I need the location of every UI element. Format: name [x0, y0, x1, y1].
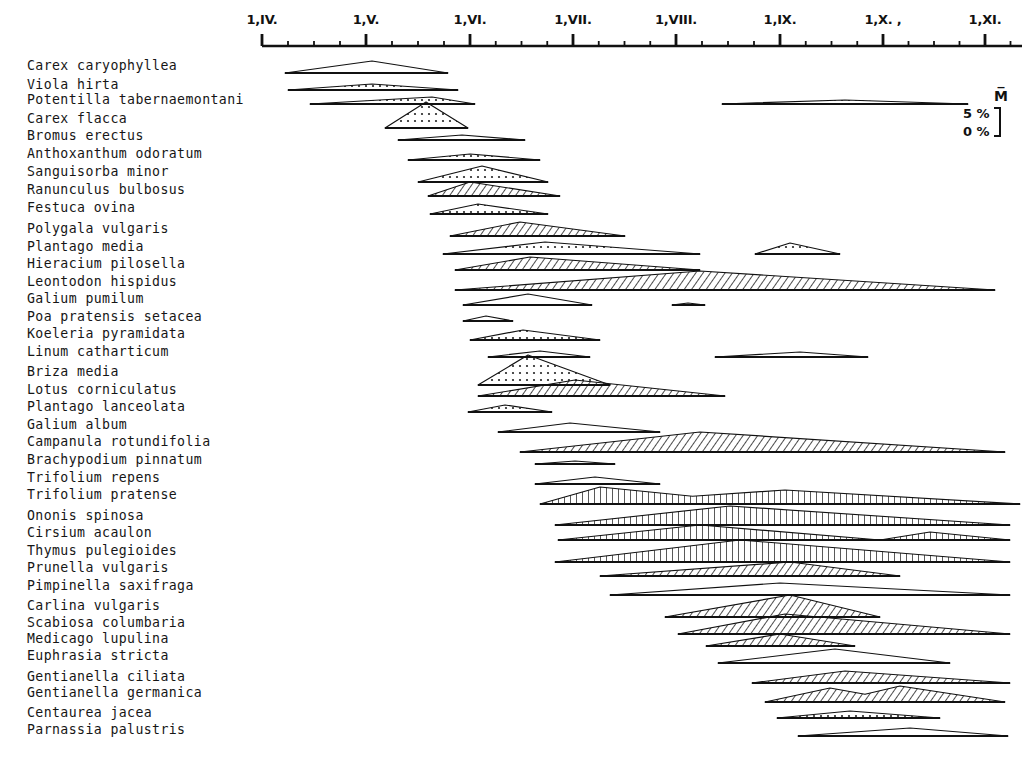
species-abundance-curve [665, 595, 880, 617]
species-abundance-curve [706, 634, 855, 646]
axis-tick-label: 1,VII. [554, 12, 591, 27]
species-abundance-curve [430, 204, 548, 214]
species-label: Bromus erectus [27, 128, 144, 143]
species-label: Leontodon hispidus [27, 274, 177, 289]
legend-lower-value: 0 % [963, 124, 990, 139]
species-label: Carlina vulgaris [27, 598, 160, 613]
species-label: Medicago lupulina [27, 631, 169, 646]
species-label: Prunella vulgaris [27, 560, 169, 575]
axis-tick-label: 1,IV. [246, 12, 277, 27]
species-abundance-curve [755, 243, 840, 254]
time-axis [262, 34, 1022, 46]
scale-legend [994, 108, 1000, 136]
axis-tick-label: 1,VI. [454, 12, 487, 27]
species-label: Briza media [27, 364, 119, 379]
species-label: Ononis spinosa [27, 508, 144, 523]
species-label: Viola hirta [27, 77, 119, 92]
species-label: Plantago lanceolata [27, 399, 185, 414]
species-abundance-curve [752, 671, 1010, 683]
species-abundance-curve [880, 532, 1010, 540]
species-label: Brachypodium pinnatum [27, 452, 202, 467]
species-abundance-curve [540, 487, 1020, 504]
species-abundance-curve [455, 257, 700, 270]
species-label: Campanula rotundifolia [27, 434, 210, 449]
species-label: Sanguisorba minor [27, 164, 169, 179]
species-abundance-curve [798, 728, 1008, 736]
phenology-chart: Carex caryophylleaViola hirtaPotentilla … [0, 0, 1034, 758]
species-abundance-curve [285, 61, 448, 73]
axis-tick-label: 1,X. , [864, 12, 901, 27]
species-label: Thymus pulegioides [27, 543, 177, 558]
legend-scale-bracket [994, 108, 1000, 136]
species-label: Cirsium acaulon [27, 525, 152, 540]
axis-tick-label: 1,IX. [764, 12, 797, 27]
species-label: Euphrasia stricta [27, 648, 169, 663]
axis-tick-label: 1,V. [353, 12, 380, 27]
species-label: Parnassia palustris [27, 722, 185, 737]
species-abundance-curve [470, 330, 600, 340]
species-abundance-curve [718, 649, 950, 663]
species-abundance-curve [555, 506, 1010, 525]
species-abundance-curve [535, 477, 660, 484]
axis-tick-label: 1,VIII. [655, 12, 697, 27]
species-curves [285, 61, 1020, 736]
species-label: Koeleria pyramidata [27, 326, 185, 341]
species-label: Gentianella germanica [27, 685, 202, 700]
species-abundance-curve [310, 97, 475, 104]
species-label: Carex caryophyllea [27, 58, 177, 73]
legend-upper-value: 5 % [963, 106, 990, 121]
species-abundance-curve [777, 711, 940, 718]
species-label: Polygala vulgaris [27, 221, 169, 236]
species-label: Galium pumilum [27, 291, 144, 306]
species-label: Trifolium repens [27, 470, 160, 485]
legend-mean-symbol: M̅ [994, 88, 1008, 104]
species-abundance-curve [455, 271, 995, 290]
species-label: Centaurea jacea [27, 705, 152, 720]
species-abundance-curve [555, 540, 1010, 562]
species-label: Hieracium pilosella [27, 256, 185, 271]
species-abundance-curve [600, 562, 900, 576]
species-abundance-curve [385, 102, 468, 128]
species-abundance-curve [520, 432, 1005, 452]
species-abundance-curve [418, 166, 548, 182]
species-abundance-curve [463, 294, 592, 305]
species-label: Poa pratensis setacea [27, 309, 202, 324]
species-abundance-curve [765, 686, 1005, 702]
species-abundance-curve [450, 222, 625, 236]
species-label: Ranunculus bulbosus [27, 182, 185, 197]
axis-tick-label: 1,XI. [969, 12, 1002, 27]
species-label: Potentilla tabernaemontani [27, 92, 244, 107]
species-abundance-curve [443, 242, 700, 254]
species-label: Lotus corniculatus [27, 382, 177, 397]
species-abundance-curve [610, 583, 1010, 595]
species-abundance-curve [468, 405, 552, 412]
species-label: Festuca ovina [27, 200, 135, 215]
species-label: Carex flacca [27, 111, 127, 126]
species-label: Galium album [27, 417, 127, 432]
species-abundance-curve [498, 423, 660, 432]
species-label: Pimpinella saxifraga [27, 578, 194, 593]
species-label: Linum catharticum [27, 344, 169, 359]
species-label: Trifolium pratense [27, 487, 177, 502]
species-label: Scabiosa columbaria [27, 615, 185, 630]
species-abundance-curve [558, 525, 880, 540]
species-abundance-curve [428, 182, 560, 196]
species-label: Gentianella ciliata [27, 669, 185, 684]
species-label: Anthoxanthum odoratum [27, 146, 202, 161]
species-abundance-curve [478, 355, 610, 385]
species-label: Plantago media [27, 239, 144, 254]
